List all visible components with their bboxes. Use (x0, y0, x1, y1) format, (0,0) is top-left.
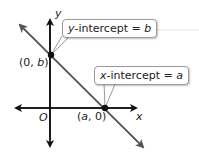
intercepts-diagram: y x O (0, b) (a, 0) y-intercept = b x-in… (0, 0, 199, 154)
linear-function-line (20, 25, 143, 147)
x-intercept-callout: x-intercept = a (94, 66, 189, 85)
y-axis-label: y (55, 8, 62, 19)
y-intercept-callout: y-intercept = b (62, 19, 157, 38)
y-intercept-point (48, 52, 54, 58)
x-intercept-label: (a, 0) (77, 111, 106, 122)
origin-label: O (39, 112, 48, 123)
x-callout-pointer (104, 82, 116, 108)
x-axis-label: x (136, 111, 143, 122)
y-intercept-label: (0, b) (19, 57, 49, 68)
y-callout-pointer (51, 36, 68, 55)
